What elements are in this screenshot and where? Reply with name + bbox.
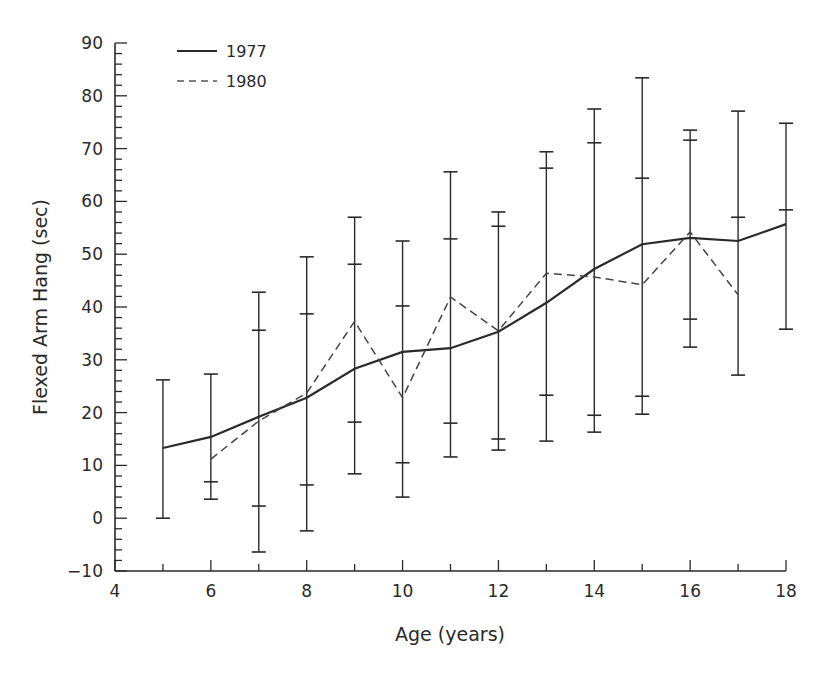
legend-label-1980: 1980: [226, 72, 267, 91]
x-tick-label: 18: [775, 581, 797, 601]
legend: 1977 1980: [177, 42, 267, 91]
y-tick-label: 70: [81, 139, 103, 159]
y-tick-label: 0: [92, 508, 103, 528]
x-tick-label: 14: [583, 581, 605, 601]
x-tick-label: 12: [488, 581, 510, 601]
series-line-1977: [163, 224, 786, 448]
y-tick-label: 30: [81, 350, 103, 370]
legend-label-1977: 1977: [226, 42, 267, 61]
y-tick-label: 80: [81, 86, 103, 106]
y-tick-label: −10: [67, 561, 103, 581]
y-tick-label: 60: [81, 191, 103, 211]
y-axis-title: Flexed Arm Hang (sec): [29, 199, 51, 415]
y-tick-label: 90: [81, 33, 103, 53]
x-tick-label: 4: [110, 581, 121, 601]
x-tick-label: 8: [301, 581, 312, 601]
x-tick-label: 10: [392, 581, 414, 601]
y-tick-label: 10: [81, 455, 103, 475]
x-axis-title: Age (years): [395, 623, 505, 645]
y-tick-label: 20: [81, 403, 103, 423]
y-tick-label: 50: [81, 244, 103, 264]
x-tick-label: 16: [679, 581, 701, 601]
y-tick-label: 40: [81, 297, 103, 317]
data-series: [163, 224, 786, 459]
series-line-1980: [211, 232, 738, 459]
error-bars: [156, 78, 793, 552]
axes: −1001020304050607080904681012141618: [67, 33, 797, 601]
flexed-arm-hang-chart: −1001020304050607080904681012141618 1977…: [0, 0, 829, 676]
x-tick-label: 6: [205, 581, 216, 601]
